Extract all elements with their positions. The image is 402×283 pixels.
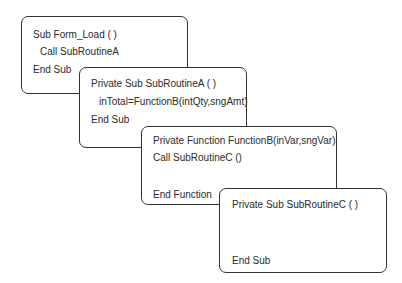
subroutine-a-end: End Sub	[91, 114, 129, 126]
function-b-call-statement: Call SubRoutineC ()	[153, 152, 242, 164]
function-b-header: Private Function FunctionB(inVar,sngVar)	[153, 135, 336, 147]
form-load-call-statement: Call SubRoutineA	[40, 46, 119, 58]
subroutine-a-assignment-statement: inTotal=FunctionB(intQty,sngAmt)	[99, 96, 248, 108]
subroutine-a-header: Private Sub SubRoutineA ( )	[91, 78, 216, 90]
subroutine-c-header: Private Sub SubRoutineC ( )	[232, 199, 358, 211]
subroutine-c-end: End Sub	[232, 255, 270, 267]
form-load-header: Sub Form_Load ( )	[33, 29, 117, 41]
form-load-end: End Sub	[33, 64, 71, 76]
function-b-end: End Function	[153, 189, 212, 201]
procedure-box-subroutine-c: Private Sub SubRoutineC ( ) End Sub	[219, 188, 387, 273]
